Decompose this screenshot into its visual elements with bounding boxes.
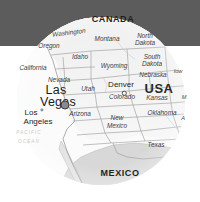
locator-map-figure: CANADA USA MEXICO Washington Oregon Idah… [0,0,200,202]
circular-map-viewport [17,17,185,185]
map-geometry [17,17,185,185]
